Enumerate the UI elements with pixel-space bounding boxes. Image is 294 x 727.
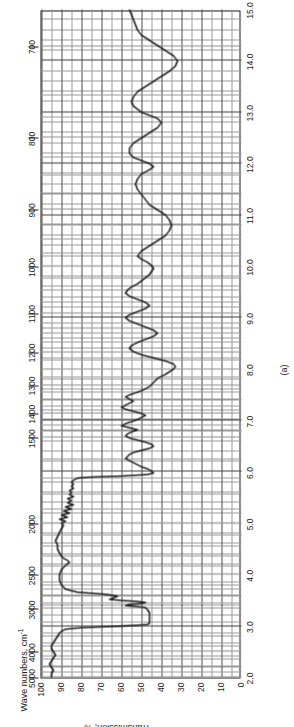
wavelength-tick-label: 6.0 bbox=[244, 467, 254, 479]
wavelength-tick-label: 3.0 bbox=[244, 621, 254, 633]
wavenumber-tick-mark bbox=[28, 352, 38, 353]
transmission-tick-label: 10 bbox=[215, 682, 225, 691]
wavelength-tick-label: 11.0 bbox=[244, 208, 254, 224]
transmission-tick-label: 30 bbox=[175, 682, 185, 691]
wavelength-tick-label: 14.0 bbox=[244, 53, 254, 70]
wavelength-tick-label: 5.0 bbox=[244, 518, 254, 530]
transmission-axis: Transmission, % 0102030405060708090100 bbox=[0, 678, 294, 727]
transmission-axis-title: Transmission, % bbox=[84, 722, 150, 727]
wavelength-tick-label: 7.0 bbox=[244, 415, 254, 427]
wavenumber-tick-mark bbox=[28, 651, 38, 652]
wavelength-tick-label: 4.0 bbox=[244, 569, 254, 581]
spectrum-curve bbox=[41, 9, 241, 677]
transmission-tick-label: 100 bbox=[35, 682, 45, 696]
wavelength-tick-label: 12.0 bbox=[244, 156, 254, 173]
wavenumber-tick-mark bbox=[28, 609, 38, 610]
wavenumber-tick-mark bbox=[28, 137, 38, 138]
wavelength-tick-label: 15.0 bbox=[244, 2, 254, 19]
wavenumber-tick-mark bbox=[28, 385, 38, 386]
wavelength-axis: Wavelength, μ 2.03.04.05.06.07.08.09.010… bbox=[240, 0, 262, 727]
transmission-tick-label: 60 bbox=[115, 682, 125, 691]
wavelength-tick-label: 13.0 bbox=[244, 105, 254, 122]
transmission-tick-label: 40 bbox=[155, 682, 165, 691]
wavenumber-tick-mark bbox=[28, 523, 38, 524]
transmission-tick-label: 90 bbox=[55, 682, 65, 691]
wavenumber-tick-mark bbox=[28, 413, 38, 414]
plot-area bbox=[40, 10, 240, 678]
wavelength-tick-label: 9.0 bbox=[244, 312, 254, 324]
chart-root: Wave numbers, cm-1 700800900100011001200… bbox=[0, 0, 294, 727]
wavenumber-tick-mark bbox=[28, 437, 38, 438]
transmission-tick-label: 0 bbox=[235, 682, 245, 687]
wavenumber-tick-mark bbox=[28, 266, 38, 267]
wavenumber-tick-mark bbox=[28, 209, 38, 210]
wavenumber-axis: Wave numbers, cm-1 700800900100011001200… bbox=[0, 0, 40, 727]
chart-canvas-rotated: Wave numbers, cm-1 700800900100011001200… bbox=[0, 0, 294, 727]
wavenumber-tick-mark bbox=[28, 313, 38, 314]
wavenumber-tick-mark bbox=[28, 46, 38, 47]
wavenumber-tick-mark bbox=[28, 574, 38, 575]
transmission-tick-label: 70 bbox=[95, 682, 105, 691]
transmission-tick-label: 80 bbox=[75, 682, 85, 691]
figure-label: (a) bbox=[278, 364, 288, 375]
wavelength-tick-label: 10.0 bbox=[244, 259, 254, 276]
transmission-tick-label: 20 bbox=[195, 682, 205, 691]
wavelength-tick-label: 8.0 bbox=[244, 364, 254, 376]
transmission-tick-label: 50 bbox=[135, 682, 145, 691]
